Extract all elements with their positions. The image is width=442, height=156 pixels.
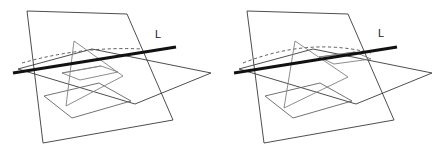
- lower-quad: [44, 83, 131, 118]
- vertical-plane: [27, 11, 173, 143]
- line-L-label: L: [155, 28, 161, 40]
- line-L: [13, 47, 176, 73]
- left-diagram-panel: L: [0, 0, 221, 156]
- grey-edge: [62, 66, 101, 73]
- lower-quad: [265, 83, 352, 118]
- right-diagram-svg: L: [221, 0, 442, 156]
- figure-root: L L: [0, 0, 442, 156]
- line-L-label: L: [378, 27, 384, 39]
- vertical-plane: [247, 11, 394, 143]
- triangle: [284, 41, 348, 108]
- triangle: [66, 41, 123, 106]
- left-diagram-svg: L: [0, 0, 221, 156]
- line-L: [234, 47, 397, 73]
- right-diagram-panel: L: [221, 0, 442, 156]
